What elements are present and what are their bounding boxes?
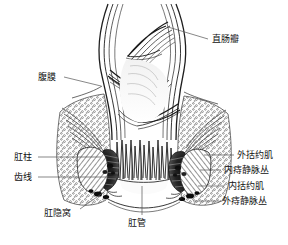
- label-anal-columns: 肛柱: [14, 152, 32, 162]
- anal-verge: [106, 198, 182, 212]
- anatomy-figure: 直肠瓣腹膜肛柱齿线肛隐窝肛管外括约肌内痔静脉丛内括约肌外痔静脉丛: [0, 0, 288, 245]
- rectal-ampulla-lumen: [120, 60, 169, 123]
- label-external-hemorrhoidal-plexus: 外痔静脉丛: [222, 196, 267, 206]
- label-external-sphincter: 外括约肌: [237, 150, 273, 160]
- label-peritoneum: 腹膜: [38, 72, 56, 82]
- label-rectal-valve: 直肠瓣: [212, 34, 239, 44]
- label-internal-hemorrhoidal-plexus: 内痔静脉丛: [224, 165, 269, 175]
- label-internal-sphincter: 内括约肌: [228, 181, 264, 191]
- label-anal-canal: 肛管: [128, 218, 146, 228]
- leader-peritoneum: [64, 77, 101, 86]
- label-anal-crypt: 肛隐窝: [44, 208, 71, 218]
- label-dentate-line: 齿线: [14, 172, 32, 182]
